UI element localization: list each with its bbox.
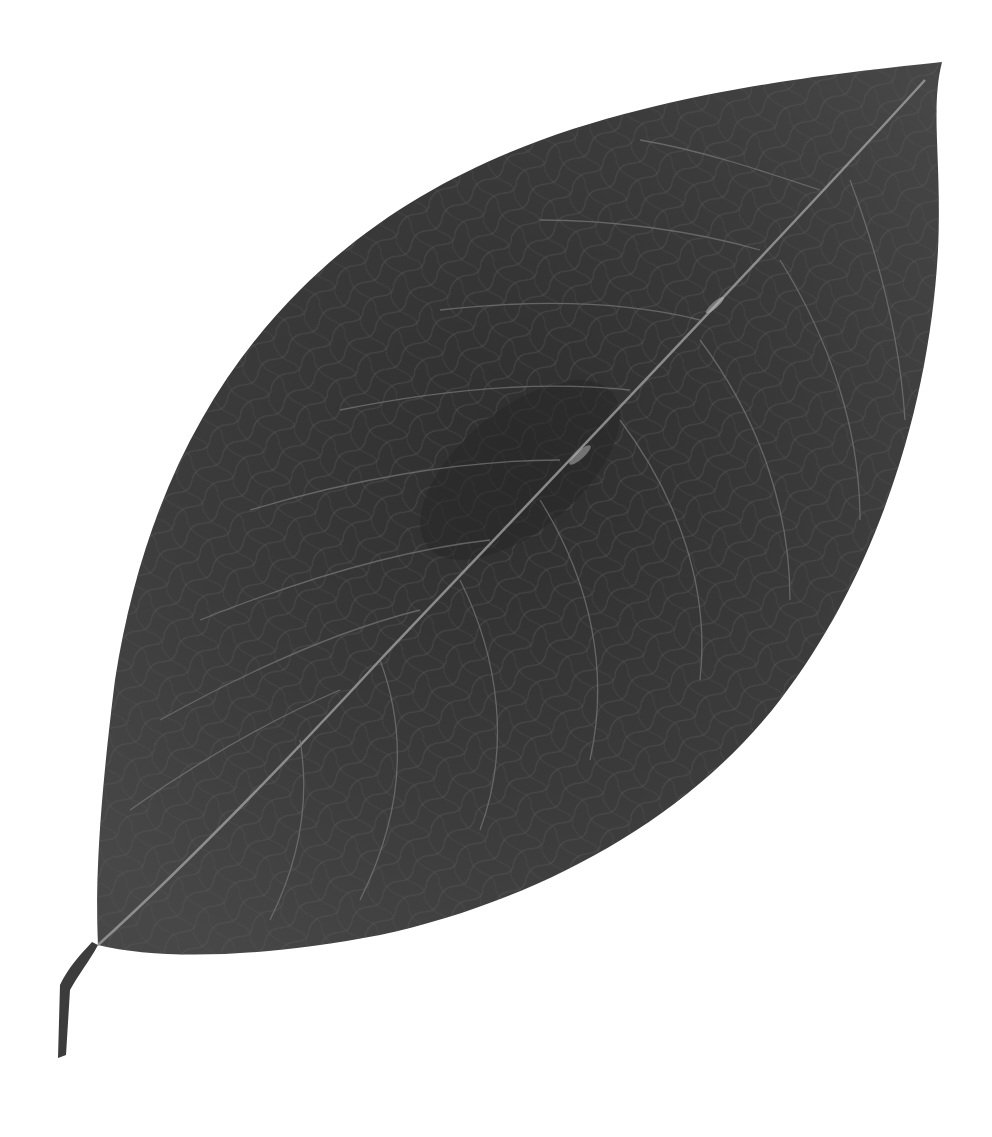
leaf-photo: Dried leaf, dark grey, photographed on w… <box>0 0 992 1137</box>
leaf-illustration <box>0 0 992 1137</box>
leaf-stem <box>58 942 98 1058</box>
